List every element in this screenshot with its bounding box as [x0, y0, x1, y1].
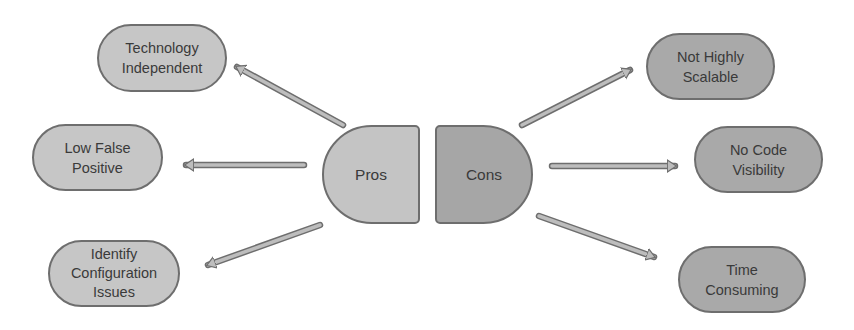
- pro-item-low-false-positive: Low False Positive: [32, 124, 163, 191]
- pro-item-label: Low False Positive: [64, 138, 130, 178]
- con-item-no-code-visibility: No Code Visibility: [694, 126, 823, 193]
- pros-hub: Pros: [322, 125, 420, 224]
- cons-arrows: [522, 70, 675, 257]
- pro-item-label: Identify Configuration Issues: [71, 245, 157, 302]
- con-item-label: Time Consuming: [705, 260, 778, 300]
- pro-item-identify-configuration-issues: Identify Configuration Issues: [48, 240, 180, 307]
- pros-hub-label: Pros: [355, 165, 387, 185]
- cons-hub: Cons: [435, 125, 533, 224]
- con-item-label: No Code Visibility: [730, 140, 787, 180]
- pro-item-technology-independent: Technology Independent: [97, 24, 227, 92]
- con-item-time-consuming: Time Consuming: [678, 246, 806, 313]
- pro-item-label: Technology Independent: [122, 38, 203, 78]
- pros-arrows: [186, 67, 343, 265]
- cons-hub-label: Cons: [466, 165, 502, 185]
- con-item-not-highly-scalable: Not Highly Scalable: [646, 33, 775, 100]
- con-item-label: Not Highly Scalable: [677, 47, 744, 87]
